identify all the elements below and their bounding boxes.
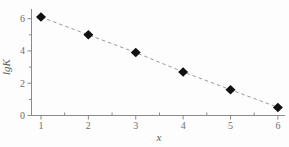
plot-svg: 1234560246 lgK x <box>0 0 289 147</box>
data-point-marker <box>273 103 283 112</box>
data-point-marker <box>36 12 46 21</box>
data-point-marker <box>131 48 141 57</box>
stability-constants-chart: 1234560246 lgK x <box>0 0 289 147</box>
x-tick-label: 1 <box>38 120 43 131</box>
x-tick-label: 5 <box>228 120 233 131</box>
plot-generated: 1234560246 <box>20 9 285 131</box>
y-tick-label: 2 <box>20 78 25 89</box>
y-tick-label: 6 <box>20 13 25 24</box>
y-tick-label: 4 <box>20 45 25 56</box>
y-axis-label: lgK <box>0 58 12 75</box>
data-point-marker <box>83 30 93 39</box>
x-tick-label: 6 <box>275 120 280 131</box>
x-tick-label: 4 <box>181 120 186 131</box>
x-tick-label: 3 <box>133 120 138 131</box>
data-point-marker <box>226 85 236 94</box>
y-tick-label: 0 <box>20 110 25 121</box>
x-axis-label: x <box>156 131 162 143</box>
x-tick-label: 2 <box>86 120 91 131</box>
data-point-marker <box>178 67 188 76</box>
data-series-line <box>41 17 278 107</box>
